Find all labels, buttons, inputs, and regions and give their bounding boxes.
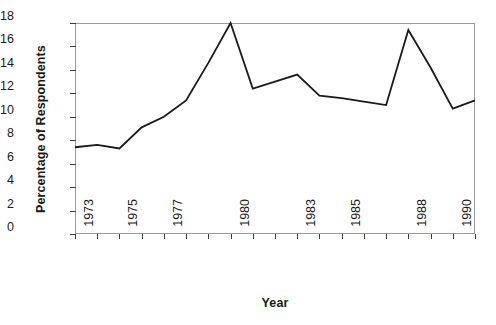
- y-tick-mark: [70, 117, 76, 118]
- x-tick-label: 1985: [349, 199, 363, 243]
- x-tick-mark: [231, 234, 232, 239]
- x-tick-mark: [119, 234, 120, 239]
- y-tick-mark: [70, 23, 76, 24]
- x-tick-mark: [408, 234, 409, 239]
- x-tick-mark: [253, 234, 254, 239]
- x-tick-mark: [208, 234, 209, 239]
- x-tick-label: 1983: [304, 199, 318, 243]
- y-tick-mark: [70, 187, 76, 188]
- x-tick-label: 1973: [82, 199, 96, 243]
- x-tick-mark: [97, 234, 98, 239]
- y-tick-mark: [70, 93, 76, 94]
- x-tick-label: 1975: [126, 199, 140, 243]
- x-tick-mark: [364, 234, 365, 239]
- x-tick-mark: [142, 234, 143, 239]
- x-tick-mark: [319, 234, 320, 239]
- x-tick-mark: [186, 234, 187, 239]
- y-tick-mark: [70, 70, 76, 71]
- y-axis-title: Percentage of Respondents: [30, 14, 52, 244]
- line-chart: Percentage of Respondents 02468101214161…: [0, 0, 496, 325]
- x-tick-mark: [75, 234, 76, 239]
- x-tick-label: 1988: [415, 199, 429, 243]
- x-tick-mark: [453, 234, 454, 239]
- y-tick-mark: [70, 140, 76, 141]
- x-axis-title: Year: [75, 296, 475, 310]
- y-tick-mark: [70, 211, 76, 212]
- x-tick-mark: [342, 234, 343, 239]
- x-tick-mark: [275, 234, 276, 239]
- x-tick-mark: [431, 234, 432, 239]
- y-tick-mark: [70, 164, 76, 165]
- x-tick-mark: [297, 234, 298, 239]
- x-tick-label: 1980: [238, 199, 252, 243]
- x-tick-mark: [164, 234, 165, 239]
- x-tick-mark: [475, 234, 476, 239]
- y-tick-mark: [70, 46, 76, 47]
- x-tick-label: 1977: [171, 199, 185, 243]
- x-tick-label: 1990: [460, 199, 474, 243]
- x-tick-mark: [386, 234, 387, 239]
